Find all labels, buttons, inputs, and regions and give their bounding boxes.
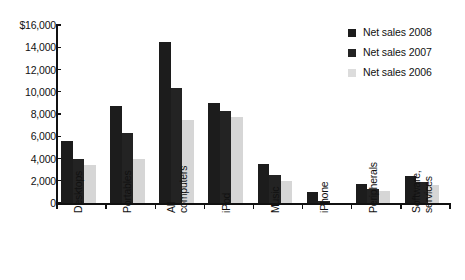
y-axis-tick-label: $16,000 [2, 20, 56, 30]
x-axis-tick-mark [56, 204, 57, 209]
x-axis-category-line: Software, [410, 170, 422, 213]
legend-item: Net sales 2006 [348, 64, 432, 81]
bar [208, 103, 220, 203]
y-axis-tick-label: 10,000 [2, 87, 56, 97]
y-axis-tick-label: 12,000 [2, 65, 56, 75]
legend-swatch-icon [348, 29, 356, 37]
bar-group [307, 25, 342, 203]
x-axis-category-line: services [423, 170, 435, 213]
x-axis-category-label: iPhone [319, 182, 331, 214]
x-axis-category-line: Music [269, 187, 281, 213]
x-axis-category-label: Desktops [73, 171, 85, 213]
y-axis-tick-label: 4,000 [2, 154, 56, 164]
x-axis-tick-mark [155, 204, 156, 209]
x-axis-category-line: Desktops [72, 171, 84, 213]
y-axis-tick-label: 0 [2, 198, 56, 208]
x-axis-category-label: Allcomputers [166, 166, 189, 213]
x-axis-category-label: Portables [122, 170, 134, 213]
x-axis-category-line: Peripherals [367, 162, 379, 213]
x-axis-tick-mark [400, 204, 401, 209]
legend-item-label: Net sales 2007 [363, 47, 432, 58]
legend-swatch-icon [348, 49, 356, 57]
y-axis-labels: $16,00014,00012,00010,0008,0006,0004,000… [0, 0, 56, 280]
bar [379, 191, 391, 203]
bar [307, 192, 319, 203]
bar [356, 184, 368, 203]
legend-item: Net sales 2007 [348, 44, 432, 61]
bar [133, 159, 145, 204]
bar-group [258, 25, 293, 203]
x-axis-category-line: iPhone [318, 182, 330, 214]
bar [281, 181, 293, 203]
y-axis-tick-label: 8,000 [2, 109, 56, 119]
bar-chart: $16,00014,00012,00010,0008,0006,0004,000… [0, 0, 465, 280]
bar [231, 117, 243, 203]
x-axis-tick-mark [302, 204, 303, 209]
x-axis-tick-mark [253, 204, 254, 209]
bar [61, 141, 73, 203]
bar [258, 164, 270, 203]
bar [110, 106, 122, 203]
legend-item-label: Net sales 2006 [363, 67, 432, 78]
x-axis-category-line: Portables [121, 170, 133, 213]
y-axis-tick-label: 2,000 [2, 176, 56, 186]
legend-item-label: Net sales 2008 [363, 27, 432, 38]
y-axis-tick-label: 6,000 [2, 131, 56, 141]
bar [220, 111, 232, 203]
x-axis-category-label: iPod [221, 193, 233, 213]
x-axis-category-line: iPod [220, 193, 232, 213]
x-axis-category-line: computers [177, 166, 189, 213]
x-axis-tick-mark [449, 204, 450, 209]
legend-swatch-icon [348, 69, 356, 77]
bar [84, 165, 96, 203]
chart-legend: Net sales 2008Net sales 2007Net sales 20… [348, 24, 432, 84]
y-axis-tick-label: 14,000 [2, 42, 56, 52]
bar-group [208, 25, 243, 203]
x-axis-category-label: Music [270, 187, 282, 213]
x-axis-tick-mark [105, 204, 106, 209]
x-axis-tick-mark [351, 204, 352, 209]
x-axis-tick-mark [204, 204, 205, 209]
legend-item: Net sales 2008 [348, 24, 432, 41]
x-axis-category-label: Software,services [411, 170, 434, 213]
x-axis-category-line: All [165, 202, 177, 213]
x-axis-category-label: Peripherals [368, 162, 380, 213]
